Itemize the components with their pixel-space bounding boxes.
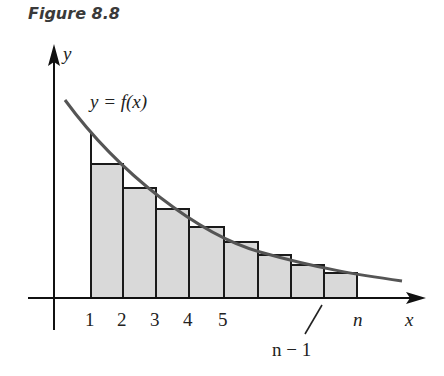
tick-n-minus-1: n − 1 — [272, 339, 311, 360]
rectangles — [91, 164, 357, 298]
rect-6 — [258, 255, 291, 298]
rect-2 — [123, 188, 156, 298]
curve-label: y = f(x) — [88, 91, 147, 113]
rect-3 — [156, 209, 189, 298]
rect-1 — [91, 164, 123, 298]
tick-n: n — [353, 309, 363, 330]
tick-1: 1 — [85, 309, 95, 330]
x-axis-label: x — [404, 309, 414, 330]
n-minus-1-pointer — [305, 305, 322, 334]
rect-8 — [324, 273, 357, 298]
figure-plot: y x y = f(x) 1 2 3 4 5 n n − 1 — [0, 0, 444, 376]
tick-5: 5 — [218, 309, 228, 330]
tick-4: 4 — [183, 309, 193, 330]
y-axis-label: y — [61, 43, 72, 64]
rect-4 — [189, 227, 224, 298]
tick-2: 2 — [117, 309, 127, 330]
rect-7 — [291, 265, 324, 298]
tick-3: 3 — [150, 309, 160, 330]
